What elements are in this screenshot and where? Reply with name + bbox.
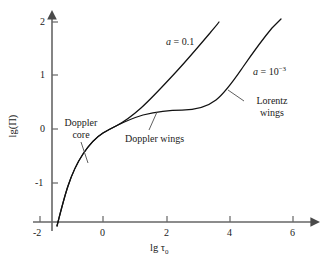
annotation-doppler-core-line1: Doppler [52,117,110,129]
x-tick-label-0: 0 [100,228,105,238]
x-axis-title-sub: 0 [165,248,169,256]
curve-label-a-0p1-value: = 0.1 [171,36,194,47]
y-tick-label-0: 0 [40,124,45,134]
x-axis-ticks [40,216,293,222]
x-tick-label-4: 4 [227,228,232,238]
y-axis-title-text: lg(Π) [8,115,19,138]
curve-label-a-1e-3: a = 10−3 [253,66,286,78]
annotation-doppler-wings-line1: Doppler wings [125,133,184,145]
annotation-lorentz-wings-line2: wings [246,107,298,119]
x-tick-label-6: 6 [290,228,295,238]
x-tick-label--2: -2 [33,228,41,238]
lorentz-wings-leader [228,90,244,101]
y-axis-ticks [52,22,58,183]
curve-label-a-1e-3-exponent: −3 [279,65,286,73]
annotation-doppler-wings: Doppler wings [125,133,184,145]
curve-of-growth-figure: -2 0 2 4 6 2 1 0 -1 lg(Π) lg τ0 a = 0.1 … [0,0,331,266]
x-axis-title-text: lg τ [150,242,165,253]
y-axis-title: lg(Π) [4,96,22,156]
x-axis-title: lg τ0 [150,243,169,254]
annotation-lorentz-wings: Lorentz wings [246,95,298,119]
x-tick-label-2: 2 [164,228,169,238]
doppler-core-leader [81,142,88,163]
doppler-wings-leader [149,112,157,130]
curve-label-a-0p1: a = 0.1 [166,36,194,48]
y-tick-label--1: -1 [35,178,43,188]
y-tick-label-2: 2 [40,17,45,27]
annotation-doppler-core: Doppler core [52,117,110,141]
curve-label-a-1e-3-value: = 10 [258,66,279,77]
y-tick-label-1: 1 [40,70,45,80]
annotation-doppler-core-line2: core [52,129,110,141]
annotation-lorentz-wings-line1: Lorentz [246,95,298,107]
